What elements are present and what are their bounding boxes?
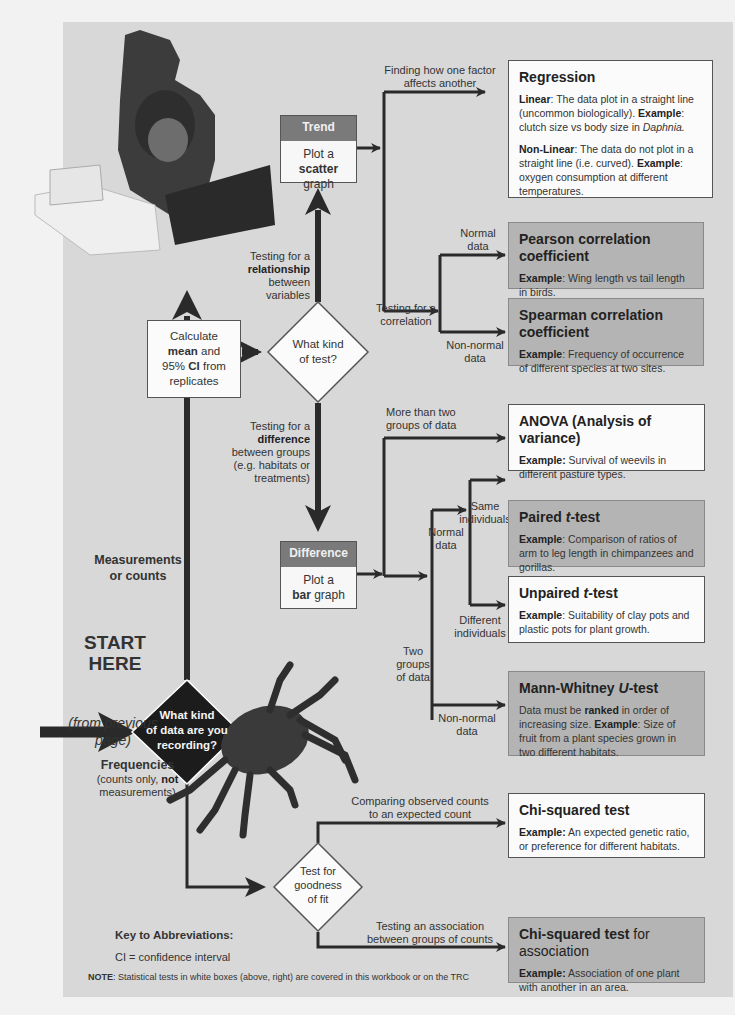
difference-branch-label: Testing for a difference between groups … <box>215 420 310 485</box>
measurements-branch-label: Measurements or counts <box>88 552 188 584</box>
root-question-text: What kind of data are you recording? <box>138 708 236 753</box>
student-laptop-illustration <box>35 30 275 255</box>
finding-factor-label: Finding how one factoraffects another <box>380 64 500 90</box>
more-than-two-groups-label: More than twogroups of data <box>386 406 476 432</box>
footnote: NOTE: Statistical tests in white boxes (… <box>88 972 528 982</box>
trend-scatter-box: Trend Plot a scatter graph <box>280 115 357 183</box>
pearson-box: Pearson correlation coefficient Example:… <box>508 222 704 289</box>
relationship-branch-label: Testing for a relationship between varia… <box>220 250 310 302</box>
unpaired-t-test-box: Unpaired t-test Example: Suitability of … <box>508 576 705 643</box>
goodness-of-fit-text: Test for goodness of fit <box>283 864 353 906</box>
difference-bar-box: Difference Plot a bar graph <box>280 541 357 609</box>
test-question-text: What kind of test? <box>278 337 358 367</box>
two-groups-label: Twogroupsof data <box>392 645 434 684</box>
correlation-label: Testing for acorrelation <box>372 302 440 328</box>
anova-box: ANOVA (Analysis of variance) Example: Su… <box>508 404 705 471</box>
key-abbreviations: Key to Abbreviations: CI = confidence in… <box>115 929 265 963</box>
normal-data-label: Normaldata <box>448 227 508 253</box>
comparing-observed-label: Comparing observed countsto an expected … <box>345 795 495 821</box>
frequencies-branch-label: Frequencies (counts only, not measuremen… <box>90 757 185 799</box>
regression-box: Regression Linear: The data plot in a st… <box>508 60 713 198</box>
difference-header: Difference <box>281 542 356 567</box>
chi-squared-association-box: Chi-squared test for association Example… <box>508 917 705 983</box>
paired-t-test-box: Paired t-test Example: Comparison of rat… <box>508 500 705 567</box>
non-normal-data-b-label: Non-normaldata <box>434 712 500 738</box>
normal-data-b-label: Normaldata <box>424 526 468 552</box>
trend-header: Trend <box>281 116 356 141</box>
mann-whitney-box: Mann-Whitney U-test Data must be ranked … <box>508 671 705 756</box>
non-normal-data-label: Non-normaldata <box>440 339 510 365</box>
chi-squared-box: Chi-squared test Example: An expected ge… <box>508 793 705 858</box>
testing-association-label: Testing an associationbetween groups of … <box>355 920 505 946</box>
different-individuals-label: Differentindividuals <box>450 614 510 640</box>
calculate-mean-ci-box: Calculate mean and 95% CI from replicate… <box>147 320 241 398</box>
spearman-box: Spearman correlation coefficient Example… <box>508 298 704 366</box>
start-here-label: START HERE <box>60 632 170 674</box>
